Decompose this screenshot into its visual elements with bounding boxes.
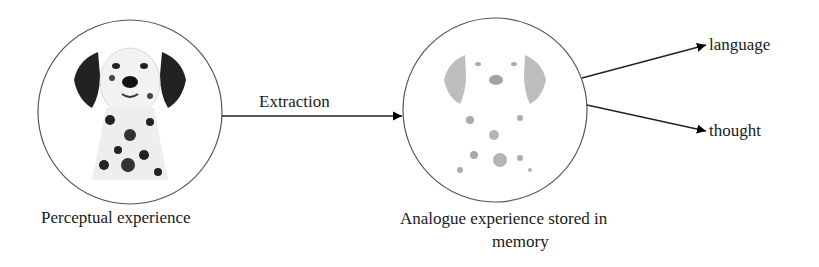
analogue-node (403, 18, 587, 202)
thought-label: thought (709, 121, 761, 141)
language-label: language (709, 35, 770, 55)
perceptual-caption: Perceptual experience (41, 208, 191, 228)
thought-arrow (587, 105, 706, 131)
language-arrow (582, 45, 706, 78)
perceptual-node (38, 20, 222, 204)
extraction-label: Extraction (259, 92, 330, 112)
analogue-caption-line2: memory (492, 232, 549, 252)
analogue-caption-line1: Analogue experience stored in (400, 209, 607, 229)
